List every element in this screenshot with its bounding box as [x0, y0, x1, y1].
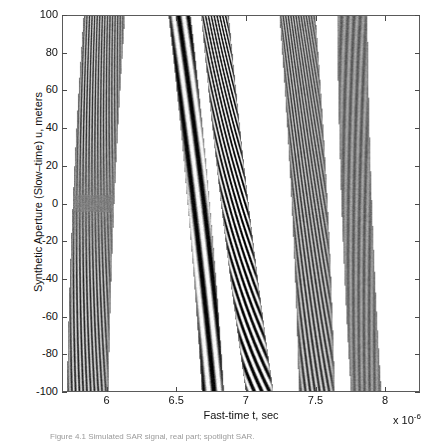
x-tick-mark — [176, 16, 177, 21]
y-tick-label: 80 — [0, 47, 58, 58]
y-tick-mark — [415, 279, 420, 280]
y-tick-mark — [415, 392, 420, 393]
y-tick-mark — [415, 204, 420, 205]
x-tick-mark — [107, 387, 108, 392]
x-tick-label: 8 — [355, 394, 415, 406]
y-axis-title: Synthetic Aperture (Slow–time) u, meters — [32, 62, 44, 322]
sar-image-canvas — [63, 16, 419, 391]
x-tick-mark — [107, 16, 108, 21]
y-tick-label: 0 — [0, 198, 58, 209]
x-tick-label: 6 — [77, 394, 137, 406]
y-tick-mark — [415, 317, 420, 318]
y-tick-mark — [415, 90, 420, 91]
y-tick-mark — [415, 354, 420, 355]
x-axis-exponent: x 10-6 — [393, 411, 421, 426]
x-tick-mark — [385, 387, 386, 392]
y-tick-mark — [62, 392, 67, 393]
y-tick-mark — [62, 90, 67, 91]
y-tick-mark — [62, 204, 67, 205]
y-tick-label: -40 — [0, 273, 58, 284]
y-tick-mark — [415, 166, 420, 167]
sar-signal-figure: 100806040200-20-40-60-80-100 66.577.58 S… — [0, 0, 440, 442]
x-exponent-power: -6 — [414, 412, 421, 421]
x-tick-label: 7.5 — [286, 394, 346, 406]
x-tick-mark — [246, 387, 247, 392]
y-tick-label: 60 — [0, 84, 58, 95]
y-tick-mark — [415, 128, 420, 129]
x-tick-mark — [316, 16, 317, 21]
y-tick-label: 100 — [0, 9, 58, 20]
y-tick-label: -80 — [0, 348, 58, 359]
x-exponent-prefix: x 10 — [393, 414, 414, 426]
y-tick-label: -60 — [0, 311, 58, 322]
x-tick-mark — [246, 16, 247, 21]
y-tick-mark — [415, 15, 420, 16]
plot-area — [62, 15, 420, 392]
x-tick-mark — [385, 16, 386, 21]
x-axis-title: Fast-time t, sec — [62, 409, 420, 421]
y-tick-mark — [62, 15, 67, 16]
y-tick-mark — [62, 128, 67, 129]
y-tick-mark — [62, 317, 67, 318]
y-tick-label: -100 — [0, 386, 58, 397]
y-tick-mark — [62, 279, 67, 280]
y-tick-mark — [415, 53, 420, 54]
x-tick-label: 7 — [216, 394, 276, 406]
y-tick-label: -20 — [0, 235, 58, 246]
figure-caption: Figure 4.1 Simulated SAR signal, real pa… — [50, 432, 430, 442]
y-tick-mark — [415, 241, 420, 242]
x-tick-mark — [176, 387, 177, 392]
y-tick-label: 20 — [0, 160, 58, 171]
x-tick-mark — [316, 387, 317, 392]
y-tick-mark — [62, 354, 67, 355]
y-tick-label: 40 — [0, 122, 58, 133]
x-tick-label: 6.5 — [146, 394, 206, 406]
y-tick-mark — [62, 241, 67, 242]
y-tick-mark — [62, 166, 67, 167]
y-tick-mark — [62, 53, 67, 54]
